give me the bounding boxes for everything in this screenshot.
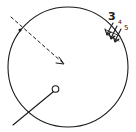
dashed-arrow-shaft [11, 17, 63, 63]
crossing-mark [19, 29, 22, 32]
dashed-arrow [11, 17, 64, 64]
diagram-canvas: 3 4 5 [0, 0, 136, 132]
probe-line [13, 86, 59, 125]
boundary-circle [8, 7, 128, 127]
probe-line-shaft [13, 92, 53, 125]
arrow-group: 3 4 5 [105, 10, 128, 42]
label-3: 3 [108, 10, 116, 23]
label-5: 5 [124, 24, 128, 32]
open-circle-marker [52, 86, 59, 93]
label-4: 4 [118, 18, 122, 25]
